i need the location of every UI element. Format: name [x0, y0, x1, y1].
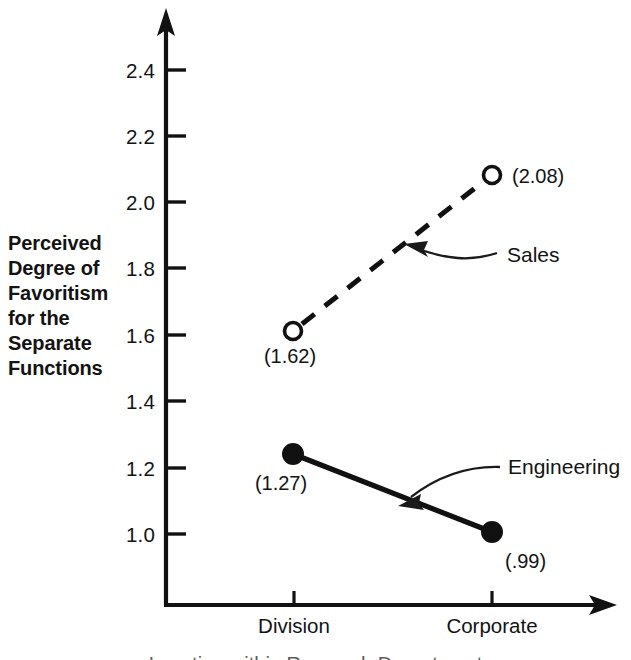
cut-off-caption-text: Location within Research Department — [0, 654, 631, 660]
y-axis-title-line: Functions — [8, 357, 103, 379]
y-tick-label: 2.2 — [126, 125, 155, 148]
engineering-point-corporate-marker — [482, 522, 502, 542]
sales-series-line — [302, 181, 484, 324]
sales-point-division-label: (1.62) — [264, 345, 316, 367]
sales-annotation-label: Sales — [507, 243, 560, 266]
engineering-annotation-label: Engineering — [508, 455, 620, 478]
y-tick-label: 2.0 — [126, 191, 155, 214]
sales-point-corporate-label: (2.08) — [512, 165, 564, 187]
sales-callout-leader — [415, 248, 497, 258]
y-tick-label: 1.4 — [126, 390, 155, 413]
y-axis-title-line: for the — [8, 307, 70, 329]
engineering-callout-leader — [411, 467, 500, 497]
y-axis-title-line: Favoritism — [8, 282, 108, 304]
cut-off-caption: Location within Research Department — [0, 654, 631, 660]
engineering-series-line — [293, 454, 492, 532]
x-category-label-division: Division — [258, 614, 330, 637]
y-tick-label: 1.6 — [126, 324, 155, 347]
y-tick-label: 1.2 — [126, 457, 155, 480]
line-chart-svg: 2.4 2.2 2.0 1.8 1.6 1.4 1.2 1.0 Perceive… — [0, 0, 631, 660]
sales-point-division-marker — [285, 323, 302, 340]
engineering-annotation: Engineering — [398, 455, 620, 510]
y-axis-title: Perceived Degree of Favoritism for the S… — [8, 232, 108, 379]
y-axis-tick-labels: 2.4 2.2 2.0 1.8 1.6 1.4 1.2 1.0 — [126, 59, 155, 546]
engineering-series: (1.27) (.99) — [255, 444, 546, 572]
x-axis-category-labels: Division Corporate — [258, 614, 537, 637]
y-axis-title-line: Perceived — [8, 232, 102, 254]
engineering-point-division-marker — [283, 444, 303, 464]
y-tick-label: 1.8 — [126, 257, 155, 280]
y-axis-title-line: Separate — [8, 332, 92, 354]
y-tick-label: 1.0 — [126, 523, 155, 546]
x-category-label-corporate: Corporate — [446, 614, 537, 637]
y-axis — [157, 8, 175, 605]
y-axis-title-line: Degree of — [8, 257, 100, 279]
x-axis — [164, 595, 617, 615]
sales-point-corporate-marker — [484, 167, 501, 184]
chart-figure: 2.4 2.2 2.0 1.8 1.6 1.4 1.2 1.0 Perceive… — [0, 0, 631, 660]
engineering-point-corporate-label: (.99) — [505, 550, 546, 572]
sales-callout-arrowhead — [404, 241, 428, 257]
sales-series: (1.62) (2.08) — [264, 165, 564, 367]
engineering-point-division-label: (1.27) — [255, 472, 307, 494]
sales-annotation: Sales — [404, 241, 560, 266]
y-tick-label: 2.4 — [126, 59, 155, 82]
y-axis-ticks — [166, 70, 186, 534]
